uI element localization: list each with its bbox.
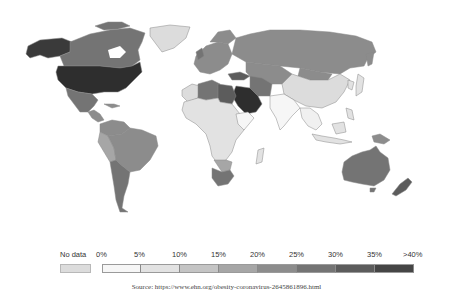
legend-swatch-25-30 <box>297 264 336 273</box>
region-indonesia <box>312 134 352 144</box>
world-map-svg <box>0 0 453 240</box>
region-canada <box>60 28 145 68</box>
region-tasmania <box>370 188 376 192</box>
legend-swatch-35-40 <box>375 264 414 273</box>
world-map <box>0 0 453 240</box>
legend: No data 0% 5% 10% 15% 20% 25% 30% 35% >4… <box>58 250 418 280</box>
legend-swatch-0-5 <box>102 264 141 273</box>
region-turkey <box>228 72 250 80</box>
region-libya-egypt <box>218 84 236 104</box>
legend-label-0: 0% <box>96 250 107 259</box>
region-japan <box>356 74 364 96</box>
region-southeast-asia <box>300 108 322 130</box>
legend-label-30: 30% <box>328 250 343 259</box>
legend-label-40-plus: >40% <box>403 250 422 259</box>
legend-labels: No data 0% 5% 10% 15% 20% 25% 30% 35% >4… <box>58 250 428 262</box>
legend-color-scale <box>58 264 428 274</box>
legend-label-5: 5% <box>134 250 145 259</box>
region-madagascar <box>256 148 264 164</box>
region-sub-saharan-africa <box>182 98 248 164</box>
region-caribbean <box>104 104 120 108</box>
legend-swatch-30-35 <box>336 264 375 273</box>
legend-label-20: 20% <box>250 250 265 259</box>
region-central-america <box>88 110 104 122</box>
source-caption: Source: https://www.ehn.org/obesity-coro… <box>0 283 453 291</box>
region-scandinavia <box>210 30 236 44</box>
legend-label-10: 10% <box>172 250 187 259</box>
region-korea <box>348 80 354 90</box>
region-philippines <box>346 108 354 120</box>
legend-label-15: 15% <box>211 250 226 259</box>
legend-swatch-15-20 <box>219 264 258 273</box>
legend-swatch-20-25 <box>258 264 297 273</box>
region-borneo <box>332 122 346 134</box>
region-papua-new-guinea <box>372 134 390 144</box>
legend-label-no-data: No data <box>60 250 86 259</box>
legend-swatch-10-15 <box>180 264 219 273</box>
region-greenland <box>150 25 190 52</box>
region-new-zealand <box>392 178 412 196</box>
region-algeria <box>198 80 220 100</box>
legend-label-35: 35% <box>367 250 382 259</box>
legend-swatch-5-10 <box>141 264 180 273</box>
legend-swatch-no-data <box>60 264 91 273</box>
legend-label-25: 25% <box>289 250 304 259</box>
region-kamchatka <box>366 52 374 66</box>
region-australia <box>342 146 390 186</box>
